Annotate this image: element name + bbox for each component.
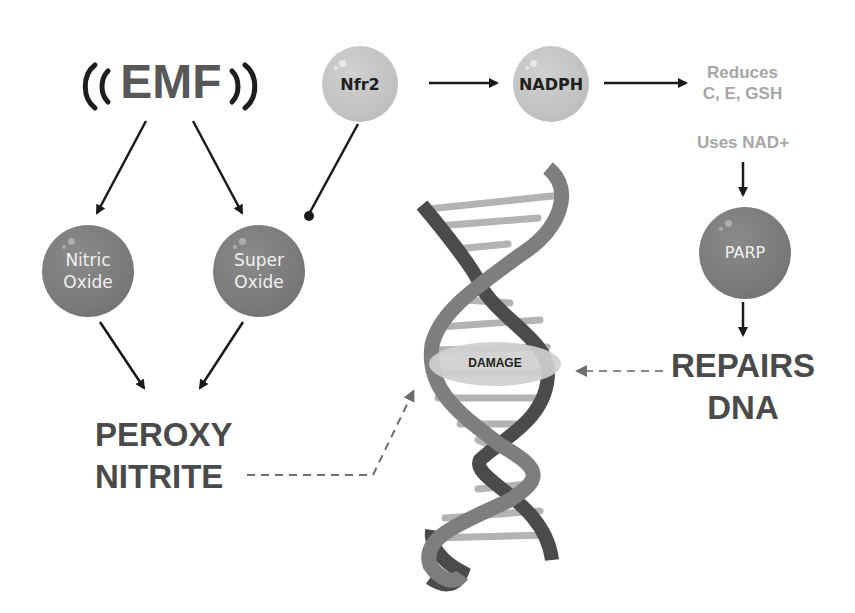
arrow-nitric-oxide-to-peroxy bbox=[100, 322, 144, 388]
dashed-arrow-peroxy-to-dna bbox=[247, 392, 413, 475]
node-nfr2-label: Nfr2 bbox=[340, 75, 379, 94]
note-uses-nad: Uses NAD+ bbox=[682, 132, 804, 153]
outcome-repairs-dna: REPAIRS DNA bbox=[663, 345, 823, 429]
radio-wave-left-icon bbox=[85, 65, 108, 108]
node-nadph: NADPH bbox=[513, 46, 589, 122]
outcome-repairs-line1: REPAIRS bbox=[663, 345, 823, 387]
note-reduces: Reduces C, E, GSH bbox=[690, 62, 795, 104]
node-nitric-oxide-line1: Nitric bbox=[63, 249, 112, 271]
radio-wave-right-icon bbox=[232, 65, 255, 108]
note-reduces-line2: C, E, GSH bbox=[690, 83, 795, 104]
arrow-emf-to-nitric-oxide bbox=[97, 121, 146, 213]
inhibit-line-nfr2-to-super-oxide bbox=[304, 124, 358, 221]
outcome-peroxy-nitrite: PEROXY NITRITE bbox=[95, 414, 245, 498]
node-super-oxide-line2: Oxide bbox=[234, 271, 284, 293]
node-parp-label: PARP bbox=[725, 242, 765, 264]
node-super-oxide-line1: Super bbox=[234, 249, 284, 271]
node-nitric-oxide: Nitric Oxide bbox=[42, 225, 134, 317]
outcome-peroxy-line1: PEROXY bbox=[95, 414, 245, 456]
emf-title: EMF bbox=[115, 56, 227, 108]
outcome-peroxy-line2: NITRITE bbox=[95, 456, 245, 498]
node-nadph-label: NADPH bbox=[519, 75, 583, 94]
node-nitric-oxide-line2: Oxide bbox=[63, 271, 112, 293]
outcome-repairs-line2: DNA bbox=[663, 387, 823, 429]
note-reduces-line1: Reduces bbox=[690, 62, 795, 83]
arrow-emf-to-super-oxide bbox=[193, 121, 242, 213]
node-nfr2: Nfr2 bbox=[322, 46, 398, 122]
arrow-super-oxide-to-peroxy bbox=[200, 322, 243, 388]
damage-label: DAMAGE bbox=[450, 356, 540, 370]
node-parp: PARP bbox=[699, 207, 791, 299]
node-super-oxide: Super Oxide bbox=[213, 225, 305, 317]
